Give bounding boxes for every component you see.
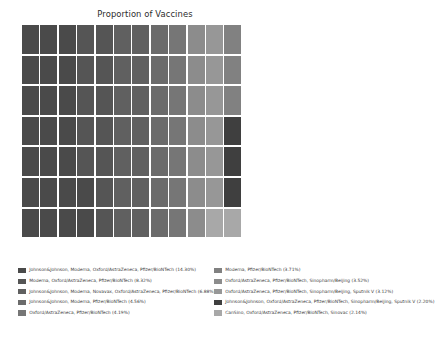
legend-item-label: Johnson&Johnson, Moderna, Pfizer/BioNTec… — [29, 300, 146, 304]
legend-item-label: Oxford/AstraZeneca, Pfizer/BioNTech, Sin… — [225, 290, 393, 294]
legend-item[interactable]: Moderna, Pfizer/BioNTech (3.71%) — [214, 266, 438, 275]
waffle-cell — [188, 25, 205, 54]
waffle-cell — [224, 209, 241, 238]
waffle-cell — [22, 147, 39, 176]
waffle-cell — [132, 178, 149, 207]
legend-item[interactable]: Johnson&Johnson, Moderna, Pfizer/BioNTec… — [18, 298, 214, 307]
waffle-cell — [59, 178, 76, 207]
legend-item[interactable]: Johnson&Johnson, Moderna, Novavax, Oxfor… — [18, 287, 214, 296]
legend-item-label: Johnson&Johnson, Moderna, Oxford/AstraZe… — [29, 268, 196, 272]
waffle-cell — [59, 56, 76, 85]
waffle-cell — [206, 25, 223, 54]
legend-swatch — [18, 268, 26, 273]
waffle-cell — [169, 86, 186, 115]
legend-item-label: CanSino, Oxford/AstraZeneca, Pfizer/BioN… — [225, 311, 367, 315]
legend-swatch — [214, 268, 222, 273]
waffle-cell — [224, 178, 241, 207]
waffle-cell — [59, 86, 76, 115]
waffle-cell — [40, 117, 57, 146]
waffle-cell — [132, 86, 149, 115]
waffle-cell — [22, 56, 39, 85]
waffle-cell — [40, 178, 57, 207]
waffle-cell — [151, 117, 168, 146]
legend-item-label: Johnson&Johnson, Moderna, Novavax, Oxfor… — [29, 290, 215, 294]
legend-item-label: Moderna, Pfizer/BioNTech (3.71%) — [225, 268, 300, 272]
legend-item-label: Oxford/AstraZeneca, Pfizer/BioNTech (4.1… — [29, 311, 129, 315]
chart-legend: Johnson&Johnson, Moderna, Oxford/AstraZe… — [18, 266, 438, 318]
waffle-cell — [206, 117, 223, 146]
legend-column-right: Moderna, Pfizer/BioNTech (3.71%)Oxford/A… — [214, 266, 438, 318]
waffle-cell — [96, 56, 113, 85]
chart-title: Proportion of Vaccines — [0, 9, 290, 19]
waffle-cell — [151, 147, 168, 176]
waffle-cell — [151, 25, 168, 54]
waffle-cell — [59, 147, 76, 176]
waffle-cell — [188, 86, 205, 115]
waffle-cell — [224, 86, 241, 115]
waffle-cell — [59, 25, 76, 54]
legend-swatch — [18, 310, 26, 315]
legend-swatch — [18, 300, 26, 305]
waffle-cell — [188, 56, 205, 85]
waffle-cell — [114, 25, 131, 54]
waffle-cell — [188, 117, 205, 146]
waffle-cell — [224, 56, 241, 85]
waffle-cell — [169, 117, 186, 146]
legend-column-left: Johnson&Johnson, Moderna, Oxford/AstraZe… — [18, 266, 214, 318]
waffle-cell — [151, 86, 168, 115]
legend-item[interactable]: Oxford/AstraZeneca, Pfizer/BioNTech, Sin… — [214, 277, 438, 286]
waffle-cell — [188, 178, 205, 207]
legend-item-label: Moderna, Oxford/AstraZeneca, Pfizer/BioN… — [29, 279, 152, 283]
waffle-cell — [132, 56, 149, 85]
waffle-cell — [188, 209, 205, 238]
waffle-cell — [132, 209, 149, 238]
legend-swatch — [214, 289, 222, 294]
legend-item[interactable]: Oxford/AstraZeneca, Pfizer/BioNTech (4.1… — [18, 308, 214, 317]
waffle-cell — [77, 209, 94, 238]
waffle-cell — [169, 56, 186, 85]
waffle-cell — [188, 147, 205, 176]
waffle-cell — [169, 178, 186, 207]
waffle-cell — [151, 56, 168, 85]
waffle-grid — [22, 25, 243, 239]
waffle-cell — [224, 117, 241, 146]
waffle-cell — [96, 178, 113, 207]
waffle-cell — [132, 117, 149, 146]
waffle-cell — [40, 56, 57, 85]
waffle-cell — [114, 56, 131, 85]
waffle-cell — [206, 56, 223, 85]
waffle-cell — [96, 86, 113, 115]
legend-item[interactable]: Johnson&Johnson, Moderna, Oxford/AstraZe… — [18, 266, 214, 275]
waffle-cell — [206, 178, 223, 207]
waffle-cell — [77, 178, 94, 207]
waffle-cell — [114, 209, 131, 238]
waffle-cell — [132, 25, 149, 54]
waffle-cell — [22, 25, 39, 54]
legend-item[interactable]: Oxford/AstraZeneca, Pfizer/BioNTech, Sin… — [214, 287, 438, 296]
waffle-chart-figure: Proportion of Vaccines Johnson&Johnson, … — [0, 0, 441, 338]
legend-item[interactable]: CanSino, Oxford/AstraZeneca, Pfizer/BioN… — [214, 308, 438, 317]
waffle-cell — [151, 178, 168, 207]
waffle-cell — [96, 209, 113, 238]
waffle-cell — [96, 147, 113, 176]
waffle-cell — [77, 56, 94, 85]
waffle-cell — [77, 86, 94, 115]
legend-swatch — [214, 300, 222, 305]
waffle-cell — [114, 117, 131, 146]
legend-swatch — [18, 279, 26, 284]
legend-swatch — [214, 279, 222, 284]
waffle-cell — [224, 25, 241, 54]
waffle-cell — [77, 25, 94, 54]
waffle-cell — [151, 209, 168, 238]
waffle-cell — [77, 117, 94, 146]
waffle-cell — [22, 209, 39, 238]
waffle-cell — [22, 117, 39, 146]
waffle-cell — [40, 147, 57, 176]
waffle-cell — [169, 209, 186, 238]
legend-item[interactable]: Johnson&Johnson, Oxford/AstraZeneca, Pfi… — [214, 298, 438, 307]
waffle-cell — [40, 86, 57, 115]
waffle-cell — [206, 147, 223, 176]
legend-item[interactable]: Moderna, Oxford/AstraZeneca, Pfizer/BioN… — [18, 277, 214, 286]
legend-item-label: Johnson&Johnson, Oxford/AstraZeneca, Pfi… — [225, 300, 434, 304]
waffle-cell — [77, 147, 94, 176]
